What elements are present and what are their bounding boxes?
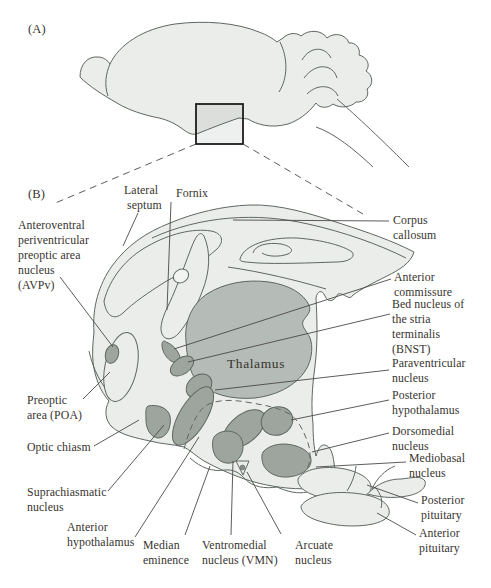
lateral-septum-label: Lateral [124,183,159,197]
lateral-septum-label: septum [127,198,162,212]
vmn-label: nucleus (VMN) [202,553,278,567]
brain-diagram-figure: (A) (B) Thalamus [0,0,491,588]
anterior-pituitary-label: Anterior [419,526,460,540]
preoptic-area-label: area (POA) [27,408,82,422]
figure-canvas: (A) (B) Thalamus [0,0,491,588]
corpus-callosum-label: callosum [393,228,436,242]
paraventricular-label: nucleus [392,371,429,385]
posterior-pituitary-label: pituitary [421,508,462,522]
ventromedial-nucleus-shape [213,431,244,463]
arcuate-label: nucleus [295,553,332,567]
preoptic-area-label: Preoptic [27,393,67,407]
median-eminence-label: Median [143,538,180,552]
median-eminence-label: eminence [143,553,189,567]
arcuate-nucleus-core [240,465,245,470]
dorsomedial-label: Dorsomedial [392,424,455,438]
brainstem-upper-line [337,99,409,167]
suprachiasmatic-nucleus-shape [146,405,171,438]
anterior-hypothalamus-label: hypothalamus [67,535,135,549]
anterior-pituitary-shape [301,493,389,526]
lateral-septum-leader [123,213,138,246]
arcuate-label: Arcuate [295,538,333,552]
panel-a-tag: (A) [28,22,46,36]
panel-a-whole-brain: (A) [28,22,409,214]
mediobasal-label: Mediobasal [409,451,466,465]
avpv-label: periventricular [18,233,89,247]
posterior-hypothalamus-label: hypothalamus [392,403,460,417]
brainstem-lower-line [316,127,373,167]
avpv-label: (AVPv) [18,278,54,292]
dorsomedial-leader [312,433,389,452]
anterior-pituitary-leader [377,513,416,535]
panel-b-tag: (B) [28,187,45,201]
anterior-hypothalamus-label: Anterior [67,520,108,534]
suprachiasmatic-label: Suprachiasmatic [27,485,106,499]
posterior-hypothalamus-label: Posterior [392,388,436,402]
mediobasal-label: nucleus [409,466,446,480]
posterior-pituitary-label: Posterior [421,493,465,507]
optic-chiasm-label: Optic chiasm [27,440,91,454]
vmn-label: Ventromedial [202,538,267,552]
bnst-label: Bed nucleus of [392,297,464,311]
avpv-label: nucleus [18,263,55,277]
bnst-label: (BNST) [392,342,431,356]
anterior-commissure-label: Anterior [394,270,435,284]
zoom-region-box [196,104,243,144]
anterior-pituitary-label: pituitary [419,541,460,555]
median-eminence-leader [185,466,210,535]
avpv-label: preoptic area [18,248,81,262]
bnst-label: the stria [392,312,431,326]
bnst-label: terminalis [392,327,440,341]
dorsomedial-nucleus-shape [262,444,311,477]
corpus-callosum-label: Corpus [393,213,428,227]
zoom-guide-right [243,144,363,214]
avpv-label: Anteroventral [18,218,85,232]
suprachiasmatic-label: nucleus [27,500,64,514]
panel-b-hypothalamus: (B) Thalamus [18,183,466,567]
fornix-label: Fornix [176,186,208,200]
thalamus-label: Thalamus [227,356,285,371]
paraventricular-label: Paraventricular [392,356,466,370]
